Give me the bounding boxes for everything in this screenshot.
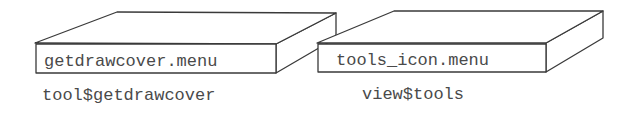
menu-file-label: tools_icon.menu [336, 51, 489, 70]
menu-box-getdrawcover: getdrawcover.menu [35, 12, 336, 73]
menu-file-label: getdrawcover.menu [44, 52, 217, 71]
menu-caption: tool$getdrawcover [42, 86, 215, 105]
menu-box-tools-icon: tools_icon.menu [317, 11, 603, 72]
menu-diagram: getdrawcover.menu tool$getdrawcover tool… [0, 0, 638, 114]
menu-caption: view$tools [362, 85, 464, 104]
